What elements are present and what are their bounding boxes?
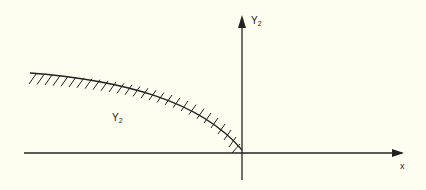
- boundary-curve: [29, 73, 242, 153]
- y-axis: [238, 15, 246, 180]
- diagram-canvas: Y2 Y2 x: [0, 0, 426, 190]
- x-axis-arrow-icon: [392, 149, 404, 157]
- y-axis-arrow-icon: [238, 15, 246, 28]
- region-label: Y2: [112, 112, 123, 124]
- x-axis-label: x: [400, 161, 405, 171]
- y-axis-label: Y2: [251, 15, 262, 27]
- x-axis: [24, 149, 404, 157]
